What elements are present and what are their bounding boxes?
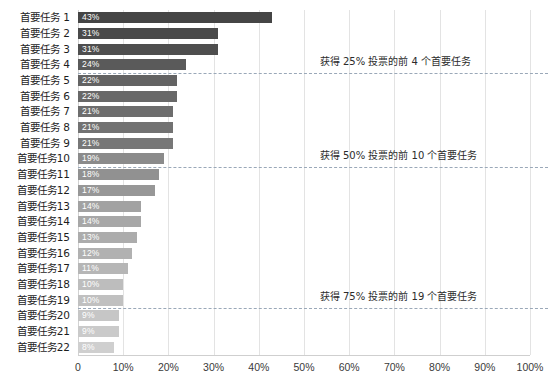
bar-chart: 首要任务 143%首要任务 231%首要任务 331%首要任务 424%首要任务… <box>0 0 548 391</box>
category-label: 首要任务14 <box>17 216 70 227</box>
category-label: 首要任务 9 <box>20 138 70 149</box>
category-label: 首要任务 2 <box>20 28 70 39</box>
gridline-100 <box>530 10 531 355</box>
threshold-annotation: 获得 25% 投票的前 4 个首要任务 <box>320 53 471 68</box>
category-label: 首要任务 8 <box>20 122 70 133</box>
x-tick-label: 40% <box>248 361 269 373</box>
x-tick-label: 50% <box>293 361 314 373</box>
threshold-annotation: 获得 75% 投票的前 19 个首要任务 <box>320 288 478 303</box>
bar: 22% <box>78 75 177 86</box>
threshold-line <box>78 308 548 309</box>
bar-value-label: 31% <box>82 44 100 55</box>
x-axis: 010%20%30%40%50%60%70%80%90%100% <box>78 357 530 379</box>
bar: 31% <box>78 44 218 55</box>
bar-row: 首要任务209% <box>78 310 530 321</box>
bar: 10% <box>78 295 123 306</box>
x-tick-label: 10% <box>113 361 134 373</box>
bar-row: 首要任务 143% <box>78 12 530 23</box>
bar-row: 首要任务1314% <box>78 201 530 212</box>
category-label: 首要任务22 <box>17 342 70 353</box>
bar: 14% <box>78 201 141 212</box>
category-label: 首要任务19 <box>17 295 70 306</box>
x-tick-label: 60% <box>339 361 360 373</box>
plot-area: 首要任务 143%首要任务 231%首要任务 331%首要任务 424%首要任务… <box>78 10 530 355</box>
bar-value-label: 11% <box>82 263 99 274</box>
bar: 18% <box>78 169 159 180</box>
bar-value-label: 14% <box>82 216 100 227</box>
category-label: 首要任务 7 <box>20 106 70 117</box>
category-label: 首要任务16 <box>17 248 70 259</box>
category-label: 首要任务11 <box>17 169 70 180</box>
bar-value-label: 14% <box>82 201 100 212</box>
bar: 43% <box>78 12 272 23</box>
bar: 9% <box>78 310 119 321</box>
bar-value-label: 17% <box>82 185 100 196</box>
category-label: 首要任务13 <box>17 201 70 212</box>
bar-value-label: 22% <box>82 91 100 102</box>
bar-value-label: 21% <box>82 138 100 149</box>
bar: 21% <box>78 138 173 149</box>
threshold-line <box>78 73 548 74</box>
bar-row: 首要任务1217% <box>78 185 530 196</box>
bar-row: 首要任务 622% <box>78 91 530 102</box>
bar-row: 首要任务219% <box>78 326 530 337</box>
bar-row: 首要任务1414% <box>78 216 530 227</box>
bar-row: 首要任务1513% <box>78 232 530 243</box>
threshold-annotation: 获得 50% 投票的前 10 个首要任务 <box>320 147 478 162</box>
bar: 14% <box>78 216 141 227</box>
bar-value-label: 24% <box>82 59 100 70</box>
bar-value-label: 21% <box>82 122 100 133</box>
category-label: 首要任务12 <box>17 185 70 196</box>
category-label: 首要任务 3 <box>20 44 70 55</box>
bar-value-label: 21% <box>82 106 100 117</box>
bar-row: 首要任务 231% <box>78 28 530 39</box>
bar: 12% <box>78 248 132 259</box>
bar: 24% <box>78 59 186 70</box>
x-tick-label: 0 <box>75 361 81 373</box>
bar: 31% <box>78 28 218 39</box>
bar: 21% <box>78 106 173 117</box>
x-axis-line <box>78 355 530 356</box>
bar-row: 首要任务 721% <box>78 106 530 117</box>
bar: 10% <box>78 279 123 290</box>
x-tick-label: 20% <box>158 361 179 373</box>
threshold-line <box>78 167 548 168</box>
bar-value-label: 13% <box>82 232 100 243</box>
x-tick-label: 30% <box>203 361 224 373</box>
category-label: 首要任务20 <box>17 310 70 321</box>
x-tick-label: 100% <box>517 361 544 373</box>
category-label: 首要任务 1 <box>20 12 70 23</box>
category-label: 首要任务15 <box>17 232 70 243</box>
category-label: 首要任务 6 <box>20 91 70 102</box>
bar-value-label: 10% <box>82 295 100 306</box>
bar-value-label: 22% <box>82 75 100 86</box>
bar-value-label: 9% <box>82 326 95 337</box>
category-label: 首要任务18 <box>17 279 70 290</box>
x-tick-label: 70% <box>384 361 405 373</box>
category-label: 首要任务10 <box>17 153 70 164</box>
bar: 19% <box>78 153 164 164</box>
bar: 13% <box>78 232 137 243</box>
category-label: 首要任务 5 <box>20 75 70 86</box>
bar-value-label: 9% <box>82 310 95 321</box>
bar: 21% <box>78 122 173 133</box>
bar-value-label: 10% <box>82 279 100 290</box>
bar-value-label: 31% <box>82 28 100 39</box>
bar-row: 首要任务 522% <box>78 75 530 86</box>
bar-value-label: 43% <box>82 12 100 23</box>
bar: 17% <box>78 185 155 196</box>
bar-row: 首要任务1612% <box>78 248 530 259</box>
bar: 8% <box>78 342 114 353</box>
bar-row: 首要任务 821% <box>78 122 530 133</box>
bar-value-label: 12% <box>82 248 100 259</box>
bar-row: 首要任务1711% <box>78 263 530 274</box>
bar-row: 首要任务228% <box>78 342 530 353</box>
x-tick-label: 80% <box>429 361 450 373</box>
bar-value-label: 18% <box>82 169 100 180</box>
bar-row: 首要任务1118% <box>78 169 530 180</box>
category-label: 首要任务 4 <box>20 59 70 70</box>
category-label: 首要任务21 <box>17 326 70 337</box>
bar: 22% <box>78 91 177 102</box>
x-tick-label: 90% <box>474 361 495 373</box>
bar-value-label: 8% <box>82 342 95 353</box>
